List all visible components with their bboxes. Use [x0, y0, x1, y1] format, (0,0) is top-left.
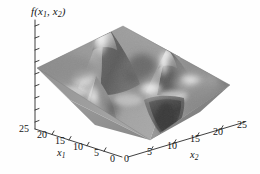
figure-surface-plot: f(x1, x2) 25 20 15 10 5 0 x1 0 5 10 15 2… — [0, 0, 260, 174]
surface-mesh — [28, 18, 240, 146]
x1-axis-line — [35, 129, 122, 157]
plot-canvas — [0, 0, 260, 174]
x1-axis-ticks — [52, 131, 106, 151]
surface-grain — [30, 18, 240, 146]
z-axis-ticks — [35, 25, 39, 123]
